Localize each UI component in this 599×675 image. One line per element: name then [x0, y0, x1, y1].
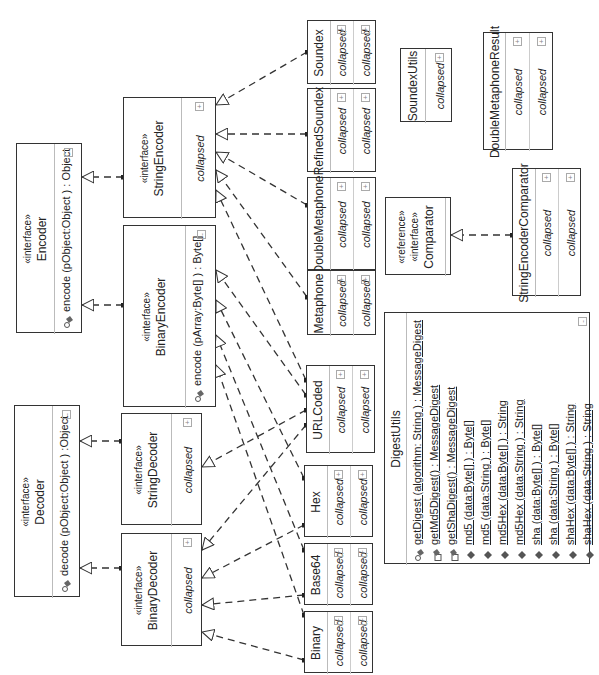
- class-header: «interface» BinaryEncoder: [124, 226, 186, 408]
- collapsed-compartment: collapsed+: [354, 178, 377, 271]
- class-digest-utils[interactable]: DigestUtils getDigest (algorithm: String…: [384, 312, 590, 564]
- operation-encode[interactable]: encode (pObject:Object ) : Object: [58, 150, 75, 328]
- operations-compartment: encode (pObject:Object ) : Object -: [55, 144, 83, 334]
- expand-toggle[interactable]: +: [336, 370, 345, 379]
- abstract-method-icon: [60, 580, 70, 592]
- class-double-metaphone[interactable]: DoubleMetaphone collapsed+ collapsed+: [307, 177, 376, 270]
- class-comparator[interactable]: «reference» «interface» Comparator: [385, 197, 451, 275]
- class-decoder[interactable]: «interface» Decoder decode (pObject:Obje…: [14, 405, 80, 597]
- collapse-toggle[interactable]: -: [578, 317, 587, 326]
- collapsed-compartment: collapsed+: [330, 366, 353, 454]
- collapsed-compartment: collapsed+: [354, 21, 377, 85]
- expand-toggle[interactable]: +: [358, 470, 367, 479]
- operation-md5-bytes[interactable]: md5 (data:Byte[] ) : Byte[]: [460, 317, 477, 561]
- operation-encode[interactable]: encode (pArray:Byte[] ) : Byte[]: [189, 232, 206, 402]
- collapsed-compartment: collapsed+: [328, 466, 351, 538]
- expand-toggle[interactable]: +: [337, 182, 346, 191]
- operations-compartment: encode (pArray:Byte[] ) : Byte[] -: [186, 226, 217, 408]
- public-method-icon: [515, 549, 525, 561]
- expand-toggle[interactable]: +: [337, 275, 346, 284]
- class-string-encoder[interactable]: «interface» StringEncoder collapsed +: [123, 97, 216, 218]
- stereotype-label: «interface»: [140, 292, 153, 341]
- operation-getmd5digest[interactable]: getMd5Digest() : MessageDigest: [426, 317, 443, 561]
- stereotype-label: «interface»: [132, 445, 145, 494]
- class-hex[interactable]: Hex collapsed+ collapsed+: [304, 465, 373, 537]
- expand-toggle[interactable]: +: [358, 616, 367, 625]
- expand-toggle[interactable]: +: [337, 25, 346, 34]
- expand-toggle[interactable]: +: [334, 548, 343, 557]
- abstract-method-icon: [62, 316, 72, 328]
- class-name: SoundexUtils: [405, 51, 421, 122]
- public-method-icon: [549, 549, 559, 561]
- expand-toggle[interactable]: +: [566, 173, 575, 182]
- expand-toggle[interactable]: +: [360, 370, 369, 379]
- expand-toggle[interactable]: +: [334, 616, 343, 625]
- stereotype-label: «interface»: [19, 477, 32, 526]
- collapse-toggle[interactable]: -: [62, 410, 71, 419]
- collapsed-compartment: collapsed+: [351, 466, 374, 538]
- expand-toggle[interactable]: +: [337, 93, 346, 102]
- collapse-toggle[interactable]: -: [64, 148, 73, 157]
- class-header: DoubleMetaphone: [308, 178, 331, 271]
- expand-toggle[interactable]: +: [361, 25, 370, 34]
- class-header: «interface» Encoder: [17, 144, 55, 334]
- class-refined-soundex[interactable]: RefinedSoundex collapsed+ collapsed+: [307, 88, 376, 172]
- public-method-icon: [464, 549, 474, 561]
- private-static-method-icon: [413, 549, 423, 561]
- expand-toggle[interactable]: +: [334, 470, 343, 479]
- public-method-icon: [566, 549, 576, 561]
- operation-decode[interactable]: decode (pObject:Object ) :Object: [56, 412, 73, 592]
- class-binary-decoder[interactable]: «interface» BinaryDecoder collapsed +: [121, 533, 202, 646]
- expand-toggle[interactable]: +: [361, 182, 370, 191]
- class-encoder[interactable]: «interface» Encoder encode (pObject:Obje…: [16, 143, 82, 333]
- collapsed-compartment: collapsed+: [559, 169, 582, 297]
- expand-toggle[interactable]: +: [183, 538, 192, 547]
- public-method-icon: [583, 549, 593, 561]
- operation-getshadigest[interactable]: getShaDigest() : MessageDigest: [443, 317, 460, 561]
- class-name: Metaphone: [311, 273, 327, 333]
- class-header: Metaphone: [308, 271, 331, 336]
- expand-toggle[interactable]: +: [361, 275, 370, 284]
- expand-toggle[interactable]: +: [183, 418, 192, 427]
- expand-toggle[interactable]: +: [542, 173, 551, 182]
- edge-hex-binaryencoder: [216, 300, 304, 478]
- class-metaphone[interactable]: Metaphone collapsed+ collapsed+: [307, 270, 376, 335]
- class-name: StringEncoder: [151, 120, 167, 196]
- class-binary-encoder[interactable]: «interface» BinaryEncoder encode (pArray…: [123, 225, 216, 407]
- class-url-coded[interactable]: URLCoded collapsed+ collapsed+: [306, 365, 375, 453]
- expand-toggle[interactable]: +: [358, 548, 367, 557]
- class-header: URLCoded: [307, 366, 330, 454]
- expand-toggle[interactable]: +: [513, 37, 522, 46]
- expand-toggle[interactable]: +: [361, 93, 370, 102]
- class-string-decoder[interactable]: «interface» StringDecoder collapsed +: [121, 413, 202, 525]
- collapse-toggle[interactable]: -: [197, 230, 206, 239]
- class-name: URLCoded: [310, 380, 326, 439]
- collapsed-compartment: collapsed+: [530, 33, 554, 151]
- class-name: Comparator: [421, 205, 437, 268]
- stereotype-label: «interface»: [21, 214, 34, 263]
- edge-urlcoded-stringencoder: [216, 190, 306, 380]
- expand-toggle[interactable]: +: [435, 53, 444, 62]
- class-header: «interface» Decoder: [15, 406, 53, 598]
- class-binary[interactable]: Binary collapsed+ collapsed+: [304, 611, 373, 673]
- collapsed-compartment: collapsed+: [426, 49, 453, 123]
- class-base64[interactable]: Base64 collapsed+ collapsed+: [304, 543, 373, 605]
- operation-getdigest[interactable]: getDigest (algorithm: String ) : Message…: [409, 317, 426, 561]
- class-string-encoder-comparator[interactable]: StringEncoderComparator collapsed+ colla…: [512, 168, 581, 296]
- operation-md5hex-string[interactable]: md5Hex (data:String ) : String: [511, 317, 528, 561]
- operation-md5hex-bytes[interactable]: md5Hex (data:Byte[] ) : String: [494, 317, 511, 561]
- class-name: Binary: [308, 626, 324, 660]
- edge-metaphone-stringencoder: [216, 170, 307, 297]
- collapsed-compartment: collapsed +: [172, 534, 203, 647]
- class-soundex-utils[interactable]: SoundexUtils collapsed+: [400, 48, 452, 122]
- operation-shahex-string[interactable]: shaHex (data:String ) : String: [579, 317, 596, 561]
- expand-toggle[interactable]: +: [195, 102, 204, 111]
- operation-sha-string[interactable]: sha (data:String ) : Byte[]: [545, 317, 562, 561]
- collapsed-compartment: collapsed+: [354, 89, 377, 173]
- class-double-metaphone-result[interactable]: DoubleMetaphoneResult collapsed+ collaps…: [483, 32, 553, 150]
- class-soundex[interactable]: Soundex collapsed+ collapsed+: [307, 20, 376, 84]
- operation-shahex-bytes[interactable]: shaHex (data:Byte[] ) : String: [562, 317, 579, 561]
- operation-md5-string[interactable]: md5 (data:String ) : Byte[]: [477, 317, 494, 561]
- expand-toggle[interactable]: +: [537, 37, 546, 46]
- operation-sha-bytes[interactable]: sha (data:Byte[] ) : Byte[]: [528, 317, 545, 561]
